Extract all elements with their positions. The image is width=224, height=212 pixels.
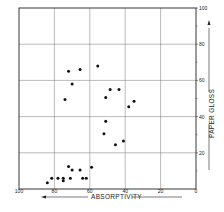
data-point bbox=[127, 105, 130, 108]
x-axis-arrow-head-icon bbox=[41, 196, 46, 199]
data-point bbox=[46, 181, 49, 184]
data-point bbox=[67, 70, 70, 73]
y-tick-label: 80 bbox=[199, 41, 205, 47]
data-point bbox=[64, 98, 67, 101]
data-points bbox=[46, 64, 136, 184]
y-tick-label: 40 bbox=[199, 114, 205, 120]
data-point bbox=[118, 88, 121, 91]
data-point bbox=[71, 83, 74, 86]
x-tick-label: 100 bbox=[15, 188, 24, 194]
scatter-chart: 100806040200 20406080100 ABSORPTIVITY PA… bbox=[0, 0, 224, 212]
y-axis-ticks: 20406080100 bbox=[196, 5, 208, 171]
grid-lines bbox=[19, 8, 196, 189]
x-tick-label: 80 bbox=[52, 188, 58, 194]
x-axis-label: ABSORPTIVITY bbox=[91, 193, 142, 200]
data-point bbox=[56, 177, 59, 180]
data-point bbox=[114, 143, 117, 146]
x-tick-label: 20 bbox=[158, 188, 164, 194]
data-point bbox=[96, 64, 99, 67]
data-point bbox=[109, 88, 112, 91]
data-point bbox=[67, 165, 70, 168]
data-point bbox=[104, 120, 107, 123]
data-point bbox=[79, 168, 82, 171]
data-point bbox=[85, 177, 88, 180]
y-tick-label: 20 bbox=[199, 150, 205, 156]
y-axis-arrow-head-icon bbox=[208, 20, 211, 25]
data-point bbox=[102, 132, 105, 135]
data-point bbox=[50, 177, 53, 180]
x-tick-label: 0 bbox=[195, 188, 198, 194]
y-tick-label: 100 bbox=[199, 5, 208, 11]
data-point bbox=[104, 96, 107, 99]
data-point bbox=[69, 177, 72, 180]
data-point bbox=[62, 179, 65, 182]
data-point bbox=[90, 166, 93, 169]
data-point bbox=[122, 140, 125, 143]
y-tick-label: 60 bbox=[199, 77, 205, 83]
data-point bbox=[81, 177, 84, 180]
data-point bbox=[62, 177, 65, 180]
plot-frame bbox=[19, 8, 196, 189]
data-point bbox=[133, 100, 136, 103]
data-point bbox=[71, 168, 74, 171]
data-point bbox=[79, 68, 82, 71]
